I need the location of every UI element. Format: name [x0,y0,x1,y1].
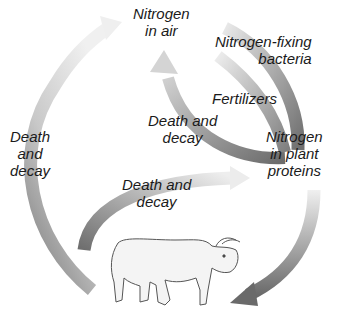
label-line: proteins [266,162,323,179]
cow-illustration [111,238,240,305]
label-line: Nitrogen [133,5,190,22]
label-line: and [10,145,50,162]
label-death-decay-mid: Death and decay [148,112,217,146]
label-line: bacteria [215,50,312,67]
label-death-decay-lower: Death and decay [122,176,191,210]
label-line: Death and [122,176,191,193]
label-line: in air [133,22,190,39]
arrow-plants-to-animal [230,190,314,306]
label-line: decay [122,193,191,210]
label-death-decay-left: Death and decay [10,128,50,179]
label-line: in plant [266,145,323,162]
label-nitrogen-in-plant-proteins: Nitrogen in plant proteins [266,128,323,179]
label-line: Nitrogen [266,128,323,145]
label-fertilizers: Fertilizers [212,90,277,107]
label-line: Death [10,128,50,145]
label-nitrogen-fixing-bacteria: Nitrogen-fixing bacteria [215,33,312,67]
label-line: Death and [148,112,217,129]
label-nitrogen-in-air: Nitrogen in air [133,5,190,39]
label-line: decay [10,162,50,179]
nitrogen-cycle-diagram: Nitrogen in air Nitrogen-fixing bacteria… [0,0,348,316]
label-line: Nitrogen-fixing [215,33,312,50]
label-line: decay [148,129,217,146]
